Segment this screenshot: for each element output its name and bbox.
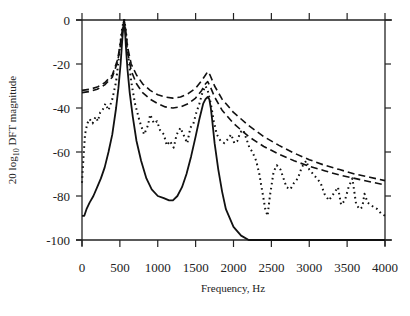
dft-magnitude-chart: 050010001500200025003000350040000-20-40-… bbox=[0, 0, 410, 316]
x-tick-label: 2500 bbox=[258, 260, 284, 275]
x-tick-label: 2000 bbox=[221, 260, 247, 275]
tick-labels: 050010001500200025003000350040000-20-40-… bbox=[46, 13, 398, 275]
y-axis-label-subscript: 10 bbox=[12, 148, 21, 156]
y-tick-label: -100 bbox=[46, 233, 70, 248]
x-tick-label: 3000 bbox=[296, 260, 322, 275]
x-tick-label: 0 bbox=[79, 260, 86, 275]
x-tick-label: 1500 bbox=[183, 260, 209, 275]
y-axis-label: 20 log10 DFT magnitude bbox=[6, 76, 21, 184]
x-tick-label: 1000 bbox=[145, 260, 171, 275]
y-tick-label: -40 bbox=[53, 101, 70, 116]
y-axis-label-prefix: 20 log bbox=[6, 156, 18, 184]
axes bbox=[76, 13, 392, 247]
y-tick-label: -60 bbox=[53, 145, 70, 160]
y-tick-label: 0 bbox=[64, 13, 71, 28]
x-tick-label: 500 bbox=[110, 260, 130, 275]
x-tick-label: 3500 bbox=[334, 260, 360, 275]
y-tick-label: -20 bbox=[53, 57, 70, 72]
series-dashed-lower bbox=[82, 22, 385, 185]
series-dotted bbox=[82, 20, 385, 216]
y-axis-label-suffix: DFT magnitude bbox=[6, 76, 18, 149]
x-tick-label: 4000 bbox=[372, 260, 398, 275]
y-tick-label: -80 bbox=[53, 189, 70, 204]
plot-series bbox=[82, 20, 385, 240]
x-axis-label: Frequency, Hz bbox=[201, 282, 265, 294]
